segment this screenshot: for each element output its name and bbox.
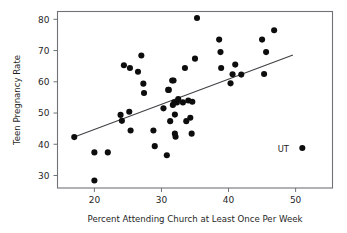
data-point <box>216 37 222 43</box>
y-tick-label: 70 <box>38 46 50 56</box>
data-point <box>138 52 144 58</box>
data-point <box>232 62 238 68</box>
data-point <box>263 49 269 55</box>
x-tick-label: 50 <box>290 195 302 205</box>
data-point <box>192 56 198 62</box>
plot-frame <box>58 12 333 189</box>
data-point <box>187 115 193 121</box>
data-point <box>182 65 188 71</box>
x-tick-label: 40 <box>223 195 235 205</box>
data-point <box>105 149 111 155</box>
data-point <box>91 177 97 183</box>
data-point <box>227 80 233 86</box>
data-point <box>180 99 186 105</box>
y-tick-label: 60 <box>38 77 50 87</box>
scatter-chart-figure: 304050607080 20304050 UT Percent Attendi… <box>0 0 347 233</box>
data-point <box>128 127 134 133</box>
data-point <box>150 127 156 133</box>
scatter-plot-canvas: 304050607080 20304050 UT Percent Attendi… <box>0 0 347 233</box>
y-tick-label: 40 <box>38 140 50 150</box>
data-point <box>121 62 127 68</box>
point-annotation-label: UT <box>278 144 290 154</box>
data-point <box>117 112 123 118</box>
data-point <box>261 71 267 77</box>
y-tick-label: 30 <box>38 171 50 181</box>
data-point <box>230 71 236 77</box>
data-point <box>172 112 178 118</box>
data-point <box>141 90 147 96</box>
y-tick-label: 50 <box>38 108 50 118</box>
data-point <box>217 49 223 55</box>
data-point <box>189 131 195 137</box>
data-point <box>91 149 97 155</box>
x-tick-label: 30 <box>156 195 168 205</box>
data-point <box>160 105 166 111</box>
data-point <box>164 152 170 158</box>
data-point <box>71 134 77 140</box>
data-point <box>271 27 277 33</box>
data-point <box>259 37 265 43</box>
data-point <box>299 145 305 151</box>
point-annotations-group: UT <box>278 144 290 154</box>
data-point <box>167 118 173 124</box>
data-point <box>218 65 224 71</box>
y-axis-title: Teen Pregnancy Rate <box>12 55 22 146</box>
x-tick-label: 20 <box>89 195 101 205</box>
data-point <box>152 143 158 149</box>
x-axis-title: Percent Attending Church at Least Once P… <box>88 214 303 224</box>
data-point <box>166 87 172 93</box>
data-point <box>194 15 200 21</box>
data-point <box>135 69 141 75</box>
data-point <box>140 81 146 87</box>
y-tick-label: 80 <box>38 15 50 25</box>
data-point <box>189 99 195 105</box>
data-point <box>127 65 133 71</box>
data-point <box>170 77 176 83</box>
data-point <box>119 118 125 124</box>
data-point <box>126 109 132 115</box>
data-point <box>172 134 178 140</box>
data-point <box>238 72 244 78</box>
